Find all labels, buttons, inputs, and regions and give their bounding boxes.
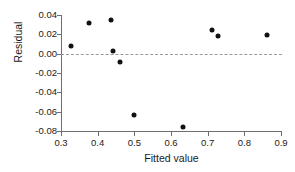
x-tick-label: 0.7 (201, 138, 214, 148)
x-axis-label: Fitted value (61, 152, 282, 164)
x-tick (244, 132, 245, 136)
zero-reference-line (61, 54, 282, 55)
data-point (265, 33, 270, 38)
residual-scatter-chart: 0.30.40.50.60.70.80.9 0.040.020.00-0.02-… (0, 0, 295, 172)
data-point (180, 125, 185, 130)
x-tick-label: 0.3 (54, 138, 67, 148)
x-tick-label: 0.8 (238, 138, 251, 148)
x-tick (134, 132, 135, 136)
y-tick (57, 112, 61, 113)
data-point (210, 28, 215, 33)
y-tick-label: 0.04 (39, 10, 58, 20)
data-point (86, 20, 91, 25)
y-tick-label: 0.00 (39, 49, 58, 59)
y-tick-label: -0.04 (35, 88, 57, 98)
y-axis-label: Residual (12, 0, 24, 87)
y-tick (57, 73, 61, 74)
x-tick-label: 0.6 (164, 138, 177, 148)
data-point (68, 43, 73, 48)
data-point (216, 34, 221, 39)
y-tick (57, 92, 61, 93)
x-tick-label: 0.9 (274, 138, 287, 148)
data-point (108, 17, 113, 22)
data-point (111, 48, 116, 53)
x-tick (171, 132, 172, 136)
x-tick (61, 132, 62, 136)
x-tick-label: 0.4 (91, 138, 104, 148)
y-tick-label: -0.02 (35, 68, 57, 78)
data-point (118, 60, 123, 65)
y-tick-label: 0.02 (39, 30, 58, 40)
data-point (131, 112, 136, 117)
y-axis-line (61, 15, 62, 132)
y-tick-label: -0.06 (35, 107, 57, 117)
y-tick-label: -0.08 (35, 126, 57, 136)
y-tick (57, 34, 61, 35)
y-tick (57, 131, 61, 132)
x-tick (98, 132, 99, 136)
x-tick-label: 0.5 (128, 138, 141, 148)
x-tick (281, 132, 282, 136)
x-tick (208, 132, 209, 136)
y-tick (57, 15, 61, 16)
y-tick (57, 54, 61, 55)
